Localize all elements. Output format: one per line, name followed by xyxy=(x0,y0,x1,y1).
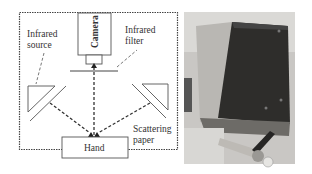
camera-label: Camera xyxy=(90,15,100,48)
device-photo xyxy=(184,12,295,167)
schematic-panel: Camera Infraredfilter Infraredsource Sca… xyxy=(20,13,178,159)
camera-lens xyxy=(86,55,102,64)
hand-label: Hand xyxy=(84,143,105,153)
figure: Camera Infraredfilter Infraredsource Sca… xyxy=(0,0,312,174)
